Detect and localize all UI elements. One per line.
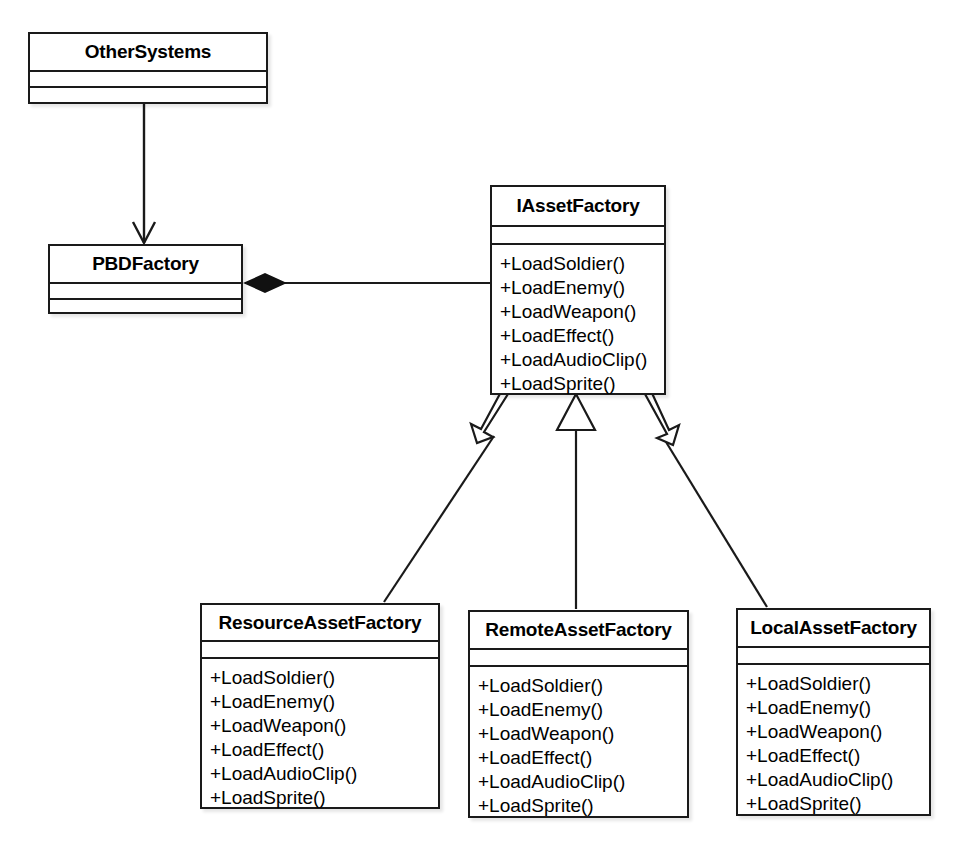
method-item: +LoadSoldier() (478, 673, 687, 697)
method-item: +LoadSprite() (210, 785, 438, 809)
class-attributes-localassetfactory (738, 648, 929, 665)
method-item: +LoadWeapon() (478, 721, 687, 745)
uml-class-localassetfactory[interactable]: LocalAssetFactory +LoadSoldier() +LoadEn… (736, 608, 931, 816)
method-item: +LoadSprite() (478, 793, 687, 817)
hollow-triangle-icon-right (645, 391, 679, 445)
uml-class-iassetfactory[interactable]: IAssetFactory +LoadSoldier() +LoadEnemy(… (490, 185, 666, 395)
class-attributes-remoteassetfactory (470, 650, 687, 667)
method-item: +LoadSoldier() (210, 665, 438, 689)
method-item: +LoadAudioClip() (746, 767, 929, 791)
class-methods-resourceassetfactory: +LoadSoldier() +LoadEnemy() +LoadWeapon(… (202, 659, 438, 813)
method-item: +LoadWeapon() (210, 713, 438, 737)
method-item: +LoadEnemy() (500, 275, 664, 299)
class-name-resourceassetfactory: ResourceAssetFactory (202, 605, 438, 642)
method-item: +LoadSprite() (500, 371, 664, 395)
class-methods-pbdfactory (50, 300, 241, 312)
filled-diamond-icon (245, 274, 285, 292)
method-item: +LoadEffect() (478, 745, 687, 769)
class-name-pbdfactory: PBDFactory (50, 246, 241, 284)
class-methods-iassetfactory: +LoadSoldier() +LoadEnemy() +LoadWeapon(… (492, 245, 664, 399)
method-item: +LoadSoldier() (746, 671, 929, 695)
uml-class-pbdfactory[interactable]: PBDFactory (48, 244, 243, 314)
edge-pbdfactory-composes-iassetfactory (245, 274, 490, 292)
class-attributes-resourceassetfactory (202, 642, 438, 659)
method-item: +LoadAudioClip() (500, 347, 664, 371)
class-methods-localassetfactory: +LoadSoldier() +LoadEnemy() +LoadWeapon(… (738, 665, 929, 819)
uml-class-othersystems[interactable]: OtherSystems (28, 32, 268, 104)
class-attributes-iassetfactory (492, 227, 664, 245)
method-item: +LoadEffect() (210, 737, 438, 761)
method-item: +LoadEnemy() (746, 695, 929, 719)
method-item: +LoadEnemy() (478, 697, 687, 721)
edge-othersystems-to-pbdfactory (133, 104, 155, 243)
edge-localassetfactory-realizes-iassetfactory (645, 391, 767, 607)
uml-class-diagram: OtherSystems PBDFactory IAssetFactory +L… (0, 0, 971, 858)
class-name-localassetfactory: LocalAssetFactory (738, 610, 929, 648)
class-name-remoteassetfactory: RemoteAssetFactory (470, 612, 687, 650)
method-item: +LoadAudioClip() (478, 769, 687, 793)
method-item: +LoadWeapon() (500, 299, 664, 323)
uml-class-remoteassetfactory[interactable]: RemoteAssetFactory +LoadSoldier() +LoadE… (468, 610, 689, 818)
method-item: +LoadEnemy() (210, 689, 438, 713)
class-methods-remoteassetfactory: +LoadSoldier() +LoadEnemy() +LoadWeapon(… (470, 667, 687, 821)
method-item: +LoadEffect() (500, 323, 664, 347)
method-item: +LoadEffect() (746, 743, 929, 767)
class-attributes-pbdfactory (50, 284, 241, 300)
method-item: +LoadAudioClip() (210, 761, 438, 785)
class-name-othersystems: OtherSystems (30, 34, 266, 72)
method-item: +LoadSprite() (746, 791, 929, 815)
hollow-triangle-icon-center (557, 394, 595, 430)
method-item: +LoadWeapon() (746, 719, 929, 743)
uml-class-resourceassetfactory[interactable]: ResourceAssetFactory +LoadSoldier() +Loa… (200, 603, 440, 809)
edge-remoteassetfactory-realizes-iassetfactory (557, 394, 595, 609)
class-attributes-othersystems (30, 72, 266, 88)
method-item: +LoadSoldier() (500, 251, 664, 275)
class-methods-othersystems (30, 88, 266, 102)
edge-resourceassetfactory-realizes-iassetfactory (384, 390, 508, 602)
class-name-iassetfactory: IAssetFactory (492, 187, 664, 227)
